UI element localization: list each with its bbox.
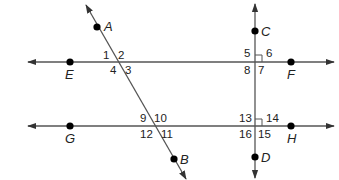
angle-label-8: 8 <box>244 64 250 76</box>
angle-label-13: 13 <box>239 112 252 124</box>
point-d-dot <box>251 153 258 160</box>
angle-label-9: 9 <box>140 112 146 124</box>
point-f-dot <box>287 58 294 65</box>
point-label-g: G <box>65 131 75 146</box>
point-label-h: H <box>287 131 297 146</box>
point-label-d: D <box>261 150 270 165</box>
angle-label-11: 11 <box>161 128 173 140</box>
point-g-dot <box>66 122 73 129</box>
point-h-dot <box>287 122 294 129</box>
angle-label-16: 16 <box>239 128 252 140</box>
angle-label-12: 12 <box>140 128 153 140</box>
line-AB <box>86 5 186 179</box>
point-label-a: A <box>103 19 113 34</box>
point-label-c: C <box>261 24 271 39</box>
angle-label-4: 4 <box>110 64 117 76</box>
angle-label-5: 5 <box>244 47 250 59</box>
point-b-dot <box>170 155 177 162</box>
right-angle-mark-icon <box>255 55 262 62</box>
angle-label-15: 15 <box>258 128 271 140</box>
angle-label-14: 14 <box>266 112 279 124</box>
point-e-dot <box>66 58 73 65</box>
angle-label-6: 6 <box>266 47 272 59</box>
points-group: ABCDEFGH <box>65 19 297 167</box>
angle-label-7: 7 <box>258 64 264 76</box>
point-label-b: B <box>180 152 189 167</box>
geometry-diagram: ABCDEFGH 12345678910111213141516 <box>0 0 339 180</box>
point-c-dot <box>251 27 258 34</box>
right-angle-mark-icon <box>255 119 262 126</box>
angle-label-3: 3 <box>125 64 131 76</box>
angle-label-1: 1 <box>103 49 109 61</box>
point-label-e: E <box>65 67 74 82</box>
point-label-f: F <box>287 67 296 82</box>
angle-label-2: 2 <box>118 49 124 61</box>
angle-label-10: 10 <box>154 112 167 124</box>
point-a-dot <box>93 23 100 30</box>
